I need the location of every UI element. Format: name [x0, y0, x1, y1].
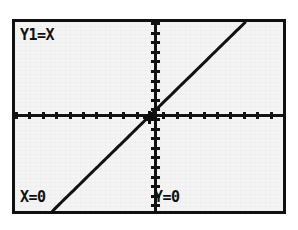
trace-y-readout: Y=0	[154, 190, 180, 205]
function-label: Y1=X	[20, 28, 54, 43]
calculator-screen[interactable]: Y1=X X=0 Y=0	[12, 19, 286, 214]
trace-x-readout: X=0	[20, 190, 46, 205]
trace-cursor	[143, 111, 156, 124]
trace-cursor-center	[146, 114, 153, 121]
calculator-screenshot: Y1=X X=0 Y=0	[0, 0, 298, 230]
